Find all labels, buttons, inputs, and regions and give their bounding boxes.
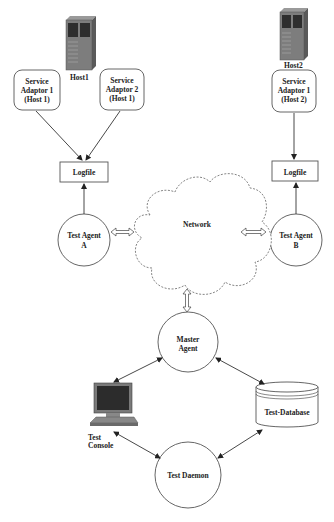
service-adaptor-2-host1: Service Adaptor 2 (Host 1) (100, 69, 144, 110)
edge-master-database (216, 358, 264, 384)
test-console-label-2: Console (88, 441, 114, 450)
svg-text:Logfile: Logfile (284, 168, 307, 177)
server-tower-icon (66, 16, 96, 70)
host2-label: Host2 (284, 61, 303, 70)
network-cloud: Network (134, 174, 271, 295)
edge-sa1-logfile (36, 111, 82, 160)
server-tower-icon (280, 8, 308, 60)
svg-text:Service: Service (110, 76, 134, 85)
svg-text:Test-Database: Test-Database (264, 408, 310, 417)
svg-text:(Host 2): (Host 2) (281, 95, 307, 104)
svg-text:Adaptor 1: Adaptor 1 (21, 86, 54, 95)
host1-label: Host1 (70, 73, 89, 82)
svg-text:Test Agent: Test Agent (279, 231, 313, 240)
svg-text:Network: Network (183, 220, 212, 229)
edge-master-console (114, 358, 162, 382)
svg-text:Test Agent: Test Agent (67, 231, 101, 240)
svg-text:Agent: Agent (178, 344, 198, 353)
logfile-host1: Logfile (60, 162, 108, 182)
test-agent-b: Test Agent B (270, 214, 322, 266)
service-adaptor-1-host2: Service Adaptor 1 (Host 2) (272, 70, 316, 112)
svg-text:A: A (81, 241, 87, 250)
double-arrow-network-master (183, 289, 191, 312)
test-daemon: Test Daemon (155, 442, 221, 508)
svg-text:Adaptor 1: Adaptor 1 (278, 86, 311, 95)
svg-text:(Host 1): (Host 1) (109, 94, 135, 103)
test-database: Test-Database (256, 382, 318, 427)
svg-text:Service: Service (25, 77, 49, 86)
svg-text:Test Daemon: Test Daemon (167, 471, 209, 480)
edge-console-daemon (114, 432, 160, 458)
logfile-host2: Logfile (272, 161, 318, 181)
test-agent-a: Test Agent A (58, 214, 110, 266)
svg-text:Master: Master (177, 335, 201, 344)
edge-sa2-logfile (86, 111, 120, 160)
svg-text:Logfile: Logfile (73, 168, 96, 177)
service-adaptor-1-host1: Service Adaptor 1 (Host 1) (14, 70, 60, 110)
svg-text:Adaptor 2: Adaptor 2 (106, 85, 139, 94)
master-agent: Master Agent (158, 312, 218, 372)
svg-text:B: B (293, 241, 298, 250)
edge-database-daemon (218, 430, 262, 458)
desktop-computer-icon (90, 383, 138, 426)
double-arrow-agentA-network (111, 228, 134, 236)
architecture-diagram: Host1 Host2 Service Adaptor 1 (Host 1) S… (0, 0, 334, 522)
svg-text:Service: Service (282, 77, 306, 86)
svg-text:(Host 1): (Host 1) (24, 95, 50, 104)
